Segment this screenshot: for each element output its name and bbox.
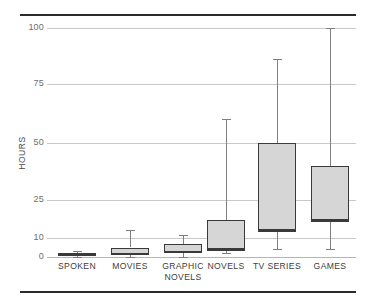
lower-whisker-cap (273, 249, 282, 250)
box-iqr (258, 143, 296, 230)
x-axis-label-games: GAMES (293, 261, 367, 272)
median-line (111, 253, 149, 254)
median-line (258, 230, 296, 231)
upper-whisker-cap (126, 230, 135, 231)
upper-whisker-cap (73, 251, 82, 252)
box-iqr (311, 166, 349, 220)
lower-whisker (330, 220, 331, 249)
upper-whisker (130, 230, 131, 247)
lower-whisker (277, 230, 278, 249)
lower-whisker-cap (126, 257, 135, 258)
upper-whisker (226, 119, 227, 220)
median-line (311, 220, 349, 221)
upper-whisker (330, 28, 331, 166)
upper-whisker-cap (273, 59, 282, 60)
upper-whisker (277, 59, 278, 143)
plot-area: 010255075100SPOKENMOVIESGRAPHICNOVELSNOV… (0, 0, 374, 307)
upper-whisker-cap (222, 119, 231, 120)
lower-whisker-cap (73, 257, 82, 258)
lower-whisker-cap (326, 249, 335, 250)
lower-whisker-cap (222, 253, 231, 254)
box-plot-chart: 010255075100SPOKENMOVIESGRAPHICNOVELSNOV… (0, 0, 374, 307)
y-axis-title: HOURS (17, 123, 27, 183)
lower-whisker-cap (179, 257, 188, 258)
upper-whisker-cap (179, 235, 188, 236)
upper-whisker (183, 235, 184, 243)
x-label-line: GAMES (293, 261, 367, 272)
median-line (58, 254, 96, 255)
upper-whisker-cap (326, 28, 335, 29)
